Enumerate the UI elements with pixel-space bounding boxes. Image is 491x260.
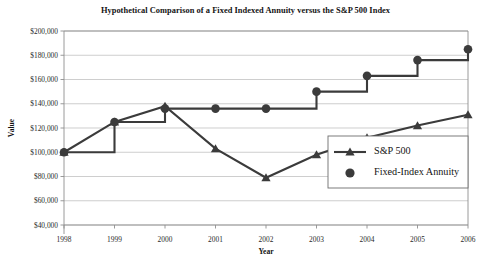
- false: [464, 45, 473, 54]
- y-tick-label: $60,000: [34, 196, 58, 205]
- false: [262, 104, 271, 113]
- y-axis-title: Value: [7, 118, 16, 137]
- x-tick-label: 2001: [208, 235, 223, 244]
- false: [60, 148, 69, 157]
- false: [161, 104, 170, 113]
- x-tick-label: 1999: [107, 235, 122, 244]
- y-tick-label: $200,000: [30, 27, 58, 36]
- y-tick-label: $180,000: [30, 51, 58, 60]
- y-tick-label: $160,000: [30, 75, 58, 84]
- x-tick-label: 2000: [158, 235, 173, 244]
- false: [363, 72, 372, 81]
- x-tick-label: 2002: [259, 235, 274, 244]
- x-axis-tick-labels: 199819992000200120022003200420052006: [57, 235, 476, 244]
- x-tick-label: 2005: [410, 235, 425, 244]
- y-tick-label: $140,000: [30, 99, 58, 108]
- legend-box: [328, 136, 468, 188]
- y-tick-label: $120,000: [30, 124, 58, 133]
- x-tick-label: 1998: [57, 235, 72, 244]
- chart-legend: S&P 500Fixed-Index Annuity: [328, 136, 468, 188]
- x-tick-label: 2003: [309, 235, 324, 244]
- y-tick-label: $100,000: [30, 148, 58, 157]
- x-axis-title: Year: [258, 247, 274, 256]
- axes-group: [61, 31, 469, 234]
- false: [312, 87, 321, 96]
- false: [211, 104, 220, 113]
- legend-label-annuity: Fixed-Index Annuity: [374, 166, 460, 177]
- legend-label-sp500: S&P 500: [374, 145, 411, 156]
- x-tick-label: 2006: [461, 235, 476, 244]
- chart-plot-area: $40,000$60,000$80,000$100,000$120,000$14…: [0, 0, 491, 260]
- y-tick-label: $40,000: [34, 221, 58, 230]
- false: [413, 56, 422, 65]
- chart-container: Hypothetical Comparison of a Fixed Index…: [0, 0, 491, 260]
- x-tick-label: 2004: [360, 235, 375, 244]
- false: [110, 118, 119, 127]
- legend-marker-circle-annuity: [345, 168, 354, 177]
- y-tick-label: $80,000: [34, 172, 58, 181]
- y-axis-tick-labels: $40,000$60,000$80,000$100,000$120,000$14…: [30, 27, 58, 230]
- false: [463, 110, 472, 118]
